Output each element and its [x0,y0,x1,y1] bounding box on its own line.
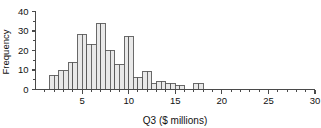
histogram-bar [101,23,106,89]
bars-group [49,23,203,89]
histogram-bar [63,70,68,90]
x-tick-label: 10 [123,95,134,106]
histogram-bar [129,37,134,90]
histogram-chart: 010203040 51015202530 Frequency Q3 ($ mi… [0,0,321,128]
y-axis-title: Frequency [0,29,11,74]
histogram-bar [194,84,199,90]
histogram-bar [147,72,152,90]
histogram-bar [115,64,120,89]
y-tick-label: 0 [23,84,28,95]
x-tick-label: 20 [217,95,228,106]
histogram-bar [82,35,87,90]
histogram-bar [161,82,166,90]
x-tick-label: 15 [170,95,181,106]
histogram-bar [133,78,138,90]
y-tick-label: 20 [18,45,29,56]
chart-canvas: 010203040 51015202530 Frequency Q3 ($ mi… [0,0,321,128]
histogram-bar [96,23,101,89]
histogram-bar [68,62,73,89]
histogram-bar [73,62,78,89]
histogram-bar [138,78,143,90]
histogram-bar [110,51,115,90]
x-tick-label: 5 [79,95,84,106]
histogram-bar [91,45,96,90]
histogram-bar [49,76,54,90]
x-tick-label: 30 [310,95,321,106]
histogram-bar [59,70,64,90]
y-tick-label: 30 [18,25,29,36]
histogram-bar [54,76,59,90]
y-tick-label: 40 [18,6,29,17]
histogram-bar [143,72,148,90]
histogram-bar [87,45,92,90]
y-tick-label: 10 [18,64,29,75]
histogram-bar [152,84,157,90]
histogram-bar [157,82,162,90]
x-axis-tick-labels: 51015202530 [79,95,320,106]
histogram-bar [105,51,110,90]
histogram-bar [77,35,82,90]
histogram-bar [171,84,176,90]
x-tick-label: 25 [263,95,274,106]
histogram-bar [180,86,185,90]
histogram-bar [119,64,124,89]
y-axis-tick-labels: 010203040 [18,6,29,95]
histogram-bar [199,84,204,90]
histogram-bar [166,84,171,90]
y-axis-ticks [32,12,36,90]
x-axis-ticks [45,90,315,94]
histogram-bar [124,37,129,90]
x-axis-title: Q3 ($ millions) [143,115,207,126]
histogram-bar [175,86,180,90]
